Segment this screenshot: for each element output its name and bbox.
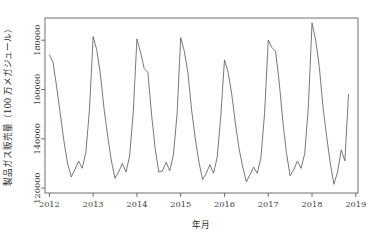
x-axis-title: 年月 bbox=[192, 219, 210, 230]
x-axis-tick-labels: 20122013201420152016201720182019 bbox=[39, 199, 366, 209]
x-tick-label: 2019 bbox=[345, 199, 366, 209]
y-tick-label: 160000 bbox=[32, 74, 42, 105]
x-tick-label: 2018 bbox=[302, 199, 323, 209]
y-tick-label: 140000 bbox=[32, 123, 42, 154]
y-tick-label: 180000 bbox=[32, 25, 42, 56]
x-tick-label: 2017 bbox=[258, 199, 279, 209]
y-axis-title: 製品ガス販売量（100 万メガジュール） bbox=[2, 24, 13, 186]
data-series-line bbox=[49, 23, 348, 184]
x-tick-label: 2015 bbox=[170, 199, 191, 209]
x-tick-label: 2012 bbox=[39, 199, 60, 209]
x-tick-label: 2013 bbox=[83, 199, 104, 209]
x-axis-tick-marks bbox=[49, 193, 355, 197]
x-tick-label: 2016 bbox=[214, 199, 235, 209]
chart-canvas: 製品ガス販売量（100 万メガジュール） 1200001400001600001… bbox=[0, 0, 373, 236]
y-axis-tick-marks bbox=[41, 40, 45, 188]
y-axis-tick-labels: 120000140000160000180000 bbox=[32, 25, 42, 204]
gas-sales-line-chart: 製品ガス販売量（100 万メガジュール） 1200001400001600001… bbox=[0, 0, 373, 236]
x-tick-label: 2014 bbox=[127, 199, 148, 209]
